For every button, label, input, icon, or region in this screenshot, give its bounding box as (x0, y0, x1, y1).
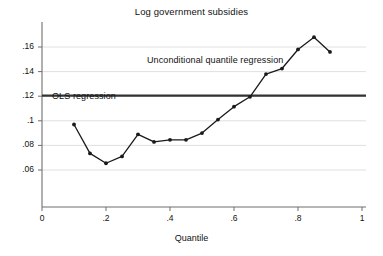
x-tick-label-5: 1 (350, 213, 374, 223)
data-point-14 (296, 48, 300, 52)
chart-plot-area (0, 0, 383, 256)
data-point-2 (104, 161, 108, 165)
data-point-10 (232, 105, 236, 109)
data-point-7 (184, 138, 188, 142)
x-axis-title: Quantile (0, 233, 383, 243)
data-point-15 (312, 35, 316, 39)
data-point-16 (328, 50, 332, 54)
x-tick-label-1: .2 (94, 213, 118, 223)
data-point-13 (280, 67, 284, 71)
data-point-12 (264, 72, 268, 76)
data-point-5 (152, 140, 156, 144)
data-point-4 (136, 132, 140, 136)
data-point-0 (72, 123, 76, 127)
data-point-9 (216, 118, 220, 122)
series-label-uqr: Unconditional quantile regression (147, 55, 283, 65)
y-tick-label-3: .12 (8, 90, 34, 100)
x-tick-label-2: .4 (158, 213, 182, 223)
y-tick-label-4: .14 (8, 66, 34, 76)
gridlines-group (42, 47, 366, 170)
data-point-3 (120, 155, 124, 159)
series-label-ols: OLS regression (52, 91, 116, 101)
y-tick-label-1: .08 (8, 139, 34, 149)
x-tick-label-4: .8 (286, 213, 310, 223)
y-tick-label-0: .06 (8, 164, 34, 174)
axes-group (42, 22, 366, 207)
data-point-1 (88, 151, 92, 155)
x-tick-marks-group (42, 207, 362, 211)
data-point-8 (200, 131, 204, 135)
y-tick-label-2: .1 (8, 115, 34, 125)
data-point-6 (168, 138, 172, 142)
data-point-11 (248, 95, 252, 99)
x-tick-label-3: .6 (222, 213, 246, 223)
chart-figure: Log government subsidies Unconditional q… (0, 0, 383, 256)
y-tick-marks-group (38, 47, 42, 170)
y-tick-label-5: .16 (8, 41, 34, 51)
x-tick-label-0: 0 (30, 213, 54, 223)
